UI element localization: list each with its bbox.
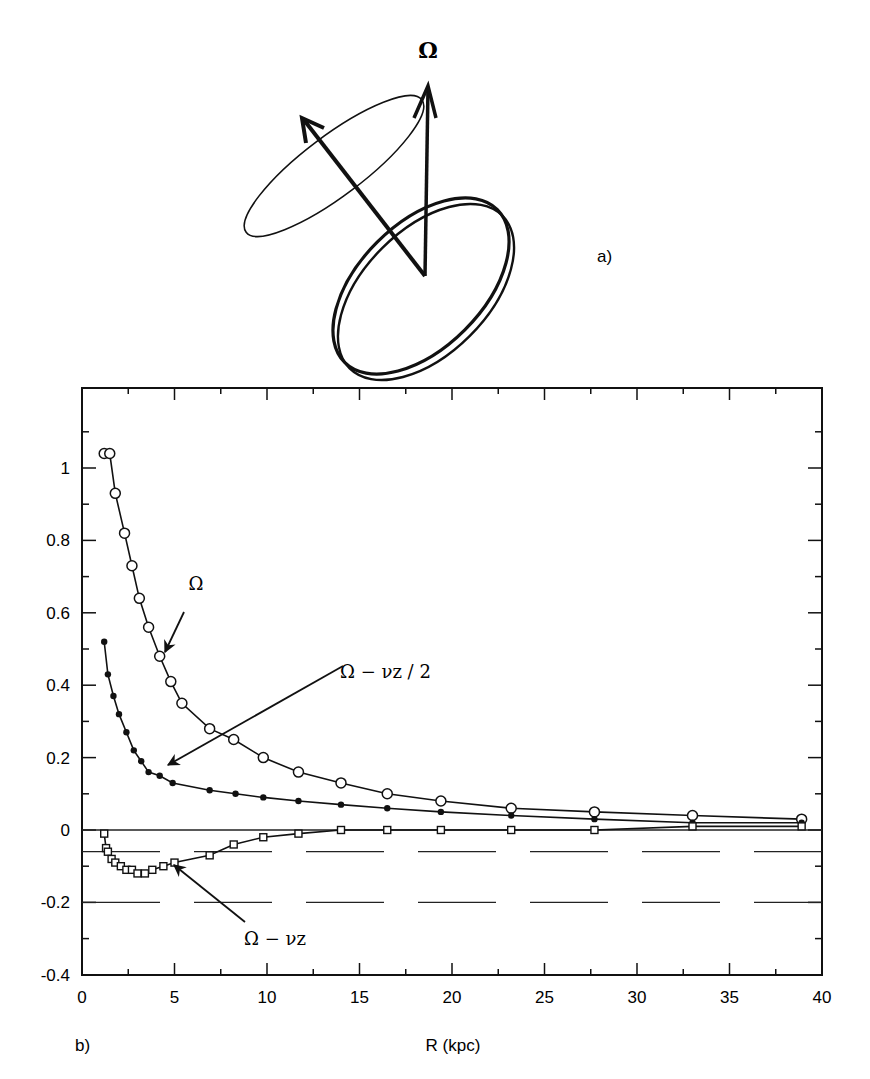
galaxy-disk-icon (301, 166, 546, 412)
data-point-circle (506, 803, 516, 813)
data-point-square (508, 827, 515, 834)
data-point-dot (110, 693, 116, 699)
data-point-square (384, 827, 391, 834)
series-line (104, 454, 801, 820)
x-tick-label: 10 (258, 988, 277, 1007)
data-point-square (689, 823, 696, 830)
data-point-square (134, 870, 141, 877)
annotation-omega-minus-nuz-label: Ω − νz (244, 928, 306, 949)
data-point-circle (120, 528, 130, 538)
x-axis-label: R (kpc) (426, 1036, 481, 1055)
panel-b-chart: 0510152025303540-0.4-0.200.20.40.60.81ΩΩ… (41, 388, 832, 1007)
x-tick-label: 25 (535, 988, 554, 1007)
data-point-circle (688, 811, 698, 821)
data-point-dot (101, 639, 107, 645)
data-point-circle (134, 593, 144, 603)
data-point-dot (116, 711, 122, 717)
data-point-circle (589, 807, 599, 817)
y-tick-label: -0.2 (41, 893, 70, 912)
data-point-circle (293, 767, 303, 777)
x-tick-label: 35 (720, 988, 739, 1007)
data-point-dot (260, 794, 266, 800)
data-point-dot (206, 787, 212, 793)
x-tick-label: 15 (350, 988, 369, 1007)
arrow-icon (174, 865, 245, 922)
omega-vertical-arrow-icon (414, 86, 436, 276)
y-tick-label: 0.2 (46, 749, 70, 768)
data-point-circle (177, 698, 187, 708)
data-point-circle (229, 735, 239, 745)
y-tick-label: 0.4 (46, 676, 70, 695)
data-point-dot (438, 809, 444, 815)
data-point-square (260, 834, 267, 841)
data-point-dot (591, 816, 597, 822)
data-point-dot (338, 801, 344, 807)
data-point-circle (382, 789, 392, 799)
panel-b-label: b) (75, 1036, 90, 1055)
data-point-circle (105, 449, 115, 459)
data-point-dot (295, 798, 301, 804)
data-point-dot (508, 812, 514, 818)
x-tick-label: 40 (813, 988, 832, 1007)
data-point-square (591, 827, 598, 834)
y-tick-label: 1 (61, 459, 70, 478)
data-point-dot (157, 773, 163, 779)
data-point-square (149, 866, 156, 873)
data-point-dot (232, 791, 238, 797)
data-point-square (101, 830, 108, 837)
data-point-dot (123, 729, 129, 735)
data-point-circle (144, 622, 154, 632)
x-tick-label: 20 (443, 988, 462, 1007)
data-point-dot (131, 747, 137, 753)
x-tick-label: 0 (77, 988, 86, 1007)
data-point-circle (436, 796, 446, 806)
data-point-dot (145, 769, 151, 775)
data-point-circle (110, 488, 120, 498)
data-point-circle (166, 677, 176, 687)
data-point-square (437, 827, 444, 834)
data-point-square (141, 870, 148, 877)
omega-vector-label: Ω (418, 37, 438, 63)
data-point-circle (127, 561, 137, 571)
y-tick-label: 0 (61, 821, 70, 840)
data-point-circle (155, 651, 165, 661)
figure: Ω a) 0510152025303540-0.4-0.200.20.40.60… (0, 0, 870, 1079)
data-point-dot (105, 671, 111, 677)
data-point-circle (336, 778, 346, 788)
panel-a-diagram: Ω a) (228, 37, 612, 412)
x-tick-label: 30 (628, 988, 647, 1007)
data-point-square (230, 841, 237, 848)
data-point-square (206, 852, 213, 859)
annotation-omega-minus-nuz-half-label: Ω − νz / 2 (340, 661, 431, 682)
arrow-icon (165, 612, 184, 652)
data-point-circle (205, 724, 215, 734)
spin-axis-arrow-icon (302, 118, 425, 276)
data-point-circle (258, 753, 268, 763)
data-point-square (338, 827, 345, 834)
annotation-omega-label: Ω (189, 573, 204, 594)
data-point-square (798, 823, 805, 830)
series-line (104, 826, 801, 873)
data-point-square (104, 848, 111, 855)
data-point-dot (169, 780, 175, 786)
y-tick-label: -0.4 (41, 966, 70, 985)
plot-frame (82, 388, 822, 975)
x-tick-label: 5 (170, 988, 179, 1007)
y-tick-label: 0.8 (46, 531, 70, 550)
precession-orbit-ellipse (228, 76, 440, 256)
data-point-square (160, 863, 167, 870)
data-point-dot (138, 758, 144, 764)
data-point-square (295, 830, 302, 837)
panel-a-label: a) (597, 247, 612, 266)
data-point-dot (384, 805, 390, 811)
y-tick-label: 0.6 (46, 604, 70, 623)
